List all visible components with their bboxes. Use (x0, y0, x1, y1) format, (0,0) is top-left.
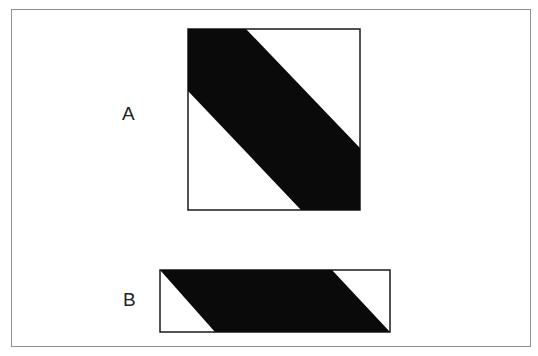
shape-b (160, 270, 390, 332)
label-a: A (122, 104, 135, 123)
shape-a (188, 29, 360, 210)
figure-canvas (0, 0, 538, 356)
label-b: B (123, 290, 136, 309)
